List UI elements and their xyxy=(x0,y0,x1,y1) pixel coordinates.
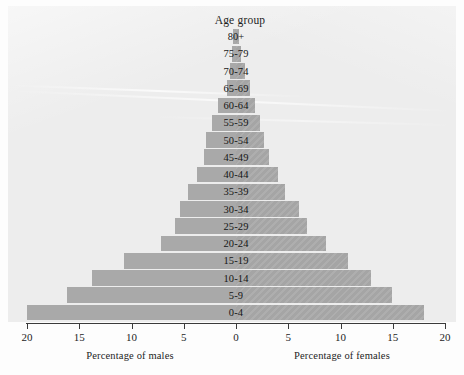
bar-row: 70-74 xyxy=(0,63,464,80)
age-group-label: 5-9 xyxy=(176,287,296,304)
bar-row: 80+ xyxy=(0,28,464,45)
chart-title-text: Age group xyxy=(215,14,266,26)
x-axis-label-males: Percentage of males xyxy=(20,350,240,361)
age-group-label: 0-4 xyxy=(176,304,296,321)
bar-row: 30-34 xyxy=(0,201,464,218)
bar-row: 5-9 xyxy=(0,287,464,304)
bar-row: 20-24 xyxy=(0,235,464,252)
population-pyramid-chart: Age group 80+75-7970-7465-6960-6455-5950… xyxy=(0,0,464,375)
x-axis-tick xyxy=(445,323,446,329)
x-axis-tick xyxy=(27,323,28,329)
age-group-label: 45-49 xyxy=(176,149,296,166)
x-axis-tick-label: 20 xyxy=(425,331,464,343)
age-group-label: 30-34 xyxy=(176,201,296,218)
age-group-label: 10-14 xyxy=(176,270,296,287)
x-axis-tick xyxy=(184,323,185,329)
x-axis-tick-label: 10 xyxy=(321,331,361,343)
bar-row: 55-59 xyxy=(0,114,464,131)
x-axis-label-females: Percentage of females xyxy=(232,350,452,361)
bar-row: 15-19 xyxy=(0,252,464,269)
x-axis-tick xyxy=(341,323,342,329)
x-axis-tick xyxy=(132,323,133,329)
bar-row: 0-4 xyxy=(0,304,464,321)
bar-row: 25-29 xyxy=(0,218,464,235)
age-group-label: 55-59 xyxy=(176,114,296,131)
x-axis-tick xyxy=(288,323,289,329)
bars-container: 80+75-7970-7465-6960-6455-5950-5445-4940… xyxy=(0,28,464,323)
age-group-label: 35-39 xyxy=(176,183,296,200)
age-group-label: 70-74 xyxy=(176,63,296,80)
age-group-label: 40-44 xyxy=(176,166,296,183)
age-group-label: 65-69 xyxy=(176,80,296,97)
x-axis-tick-label: 0 xyxy=(216,331,256,343)
x-axis-tick-label: 15 xyxy=(59,331,99,343)
bar-row: 40-44 xyxy=(0,166,464,183)
bar-row: 75-79 xyxy=(0,45,464,62)
bar-row: 35-39 xyxy=(0,183,464,200)
age-group-label: 80+ xyxy=(176,28,296,45)
x-axis-tick-label: 5 xyxy=(268,331,308,343)
bar-row: 60-64 xyxy=(0,97,464,114)
x-axis-tick xyxy=(236,323,237,329)
age-group-label: 15-19 xyxy=(176,252,296,269)
bar-row: 10-14 xyxy=(0,270,464,287)
x-axis-tick-label: 20 xyxy=(7,331,47,343)
x-axis-tick-label: 10 xyxy=(112,331,152,343)
chart-title: Age group xyxy=(0,14,464,26)
x-axis-tick xyxy=(79,323,80,329)
bar-row: 65-69 xyxy=(0,80,464,97)
x-axis-tick-label: 15 xyxy=(373,331,413,343)
age-group-label: 20-24 xyxy=(176,235,296,252)
age-group-label: 50-54 xyxy=(176,132,296,149)
age-group-label: 75-79 xyxy=(176,45,296,62)
age-group-label: 25-29 xyxy=(176,218,296,235)
bar-row: 50-54 xyxy=(0,132,464,149)
age-group-label: 60-64 xyxy=(176,97,296,114)
bar-row: 45-49 xyxy=(0,149,464,166)
x-axis-tick-label: 5 xyxy=(164,331,204,343)
x-axis-tick xyxy=(393,323,394,329)
